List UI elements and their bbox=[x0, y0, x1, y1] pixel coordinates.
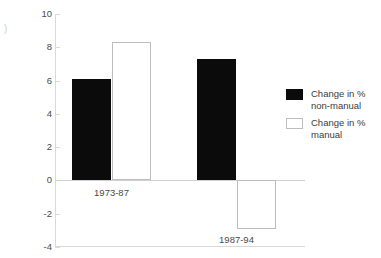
y-axis-tick-label: 2 bbox=[28, 142, 52, 152]
stray-glyph: ) bbox=[4, 24, 7, 34]
y-axis-tick-mark bbox=[55, 81, 60, 82]
bar-chart: ) 1086420-2-4 1973-871987-94 Change in %… bbox=[0, 0, 381, 258]
y-axis-tick-label: 4 bbox=[28, 109, 52, 119]
y-axis-tick-label: 8 bbox=[28, 43, 52, 53]
y-axis-tick-label: -4 bbox=[28, 242, 52, 252]
category-label: 1973-87 bbox=[94, 188, 129, 198]
y-axis-tick-mark bbox=[55, 247, 60, 248]
y-axis-tick-mark bbox=[55, 114, 60, 115]
legend-swatch-non-manual-icon bbox=[286, 89, 303, 100]
y-axis-tick-label: -2 bbox=[28, 209, 52, 219]
y-axis-tick-mark bbox=[55, 14, 60, 15]
legend-item[interactable]: Change in % non-manual bbox=[286, 88, 381, 111]
legend-swatch-manual-icon bbox=[286, 118, 303, 129]
y-axis-tick-mark bbox=[55, 214, 60, 215]
bar bbox=[112, 42, 151, 180]
category-label: 1987-94 bbox=[219, 235, 254, 245]
y-axis-tick-label: 10 bbox=[28, 9, 52, 19]
legend-label: Change in % manual bbox=[311, 117, 365, 140]
y-axis-tick-mark bbox=[55, 47, 60, 48]
y-axis-tick-mark bbox=[55, 147, 60, 148]
y-axis-tick-label: 6 bbox=[28, 76, 52, 86]
y-axis-tick-label: 0 bbox=[28, 176, 52, 186]
legend: Change in % non-manual Change in % manua… bbox=[286, 88, 381, 146]
bar bbox=[197, 59, 236, 180]
legend-label: Change in % non-manual bbox=[311, 88, 365, 111]
bar bbox=[72, 79, 111, 181]
bar bbox=[237, 180, 276, 228]
legend-item[interactable]: Change in % manual bbox=[286, 117, 381, 140]
